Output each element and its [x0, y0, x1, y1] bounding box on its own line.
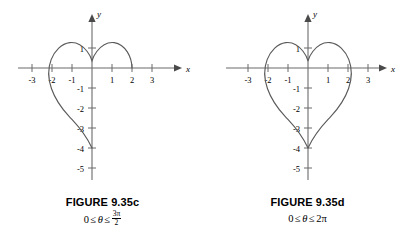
plot-area-9-35c: -3 -2 -1 1 2 3 1 -1 -2 -3 -4 -5 x y	[0, 4, 205, 194]
x-tick-label--1: -1	[68, 75, 75, 85]
cardioid-plot-full: -3 -2 -1 1 2 3 1 -1 -2 -3 -4 -5 x y	[205, 4, 410, 194]
figure-caption-title-d: FIGURE 9.35d	[205, 196, 410, 209]
range-relation-1-c: ≤	[89, 214, 98, 225]
figure-caption-title-c: FIGURE 9.35c	[0, 196, 205, 209]
figure-panel-9-35c: -3 -2 -1 1 2 3 1 -1 -2 -3 -4 -5 x y	[0, 0, 205, 249]
x-tick-label-2: 2	[130, 75, 134, 85]
range-relation-2-d: ≤	[307, 213, 316, 224]
x-axis-arrowhead	[174, 64, 182, 71]
figure-panel-9-35d: -3 -2 -1 1 2 3 1 -1 -2 -3 -4 -5 x y	[205, 0, 410, 249]
figure-pair-container: -3 -2 -1 1 2 3 1 -1 -2 -3 -4 -5 x y	[0, 0, 411, 249]
caption-block-9-35d: FIGURE 9.35d 0≤θ≤2π	[205, 196, 410, 226]
x-tick-label--1: -1	[284, 75, 291, 85]
cardioid-plot-partial: -3 -2 -1 1 2 3 1 -1 -2 -3 -4 -5 x y	[0, 4, 205, 194]
x-tick-label--3: -3	[28, 75, 35, 85]
range-relation-1-d: ≤	[293, 213, 302, 224]
y-axis-label: y	[312, 9, 317, 19]
figure-range-d: 0≤θ≤2π	[205, 211, 410, 226]
x-axis-label: x	[390, 64, 395, 74]
range-relation-2-c: ≤	[103, 214, 112, 225]
y-tick-label--2: -2	[77, 104, 84, 114]
y-axis-label: y	[96, 9, 101, 19]
y-tick-label--1: -1	[77, 84, 84, 94]
y-tick-label--5: -5	[77, 164, 84, 174]
x-tick-label-3: 3	[366, 75, 370, 85]
caption-block-9-35c: FIGURE 9.35c 0≤θ≤3π2	[0, 196, 205, 228]
y-axis-arrowhead	[88, 14, 95, 22]
y-tick-label--2: -2	[293, 104, 300, 114]
x-axis-arrowhead	[379, 64, 387, 71]
y-tick-label--4: -4	[293, 144, 301, 154]
y-axis-arrowhead	[304, 14, 311, 22]
plot-area-9-35d: -3 -2 -1 1 2 3 1 -1 -2 -3 -4 -5 x y	[205, 4, 410, 194]
x-tick-label-1: 1	[326, 75, 330, 85]
cardioid-curve-partial	[49, 42, 132, 148]
y-tick-label--1: -1	[293, 84, 300, 94]
x-tick-label-3: 3	[150, 75, 154, 85]
fraction-denominator-c: 2	[112, 219, 122, 227]
range-upper-bound-d: 2π	[316, 213, 327, 224]
y-tick-label--5: -5	[293, 164, 300, 174]
x-tick-label-1: 1	[110, 75, 114, 85]
range-upper-bound-fraction-c: 3π2	[112, 210, 122, 227]
figure-range-c: 0≤θ≤3π2	[0, 211, 205, 228]
x-axis-label: x	[185, 64, 190, 74]
y-tick-label--4: -4	[77, 144, 85, 154]
x-tick-label--3: -3	[244, 75, 251, 85]
